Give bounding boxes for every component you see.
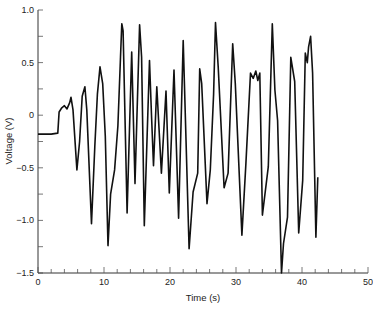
x-tick-label: 30: [231, 277, 241, 287]
x-tick-label: 10: [99, 277, 109, 287]
voltage-time-chart: 1.00.50−0.5−1.0−1.5 01020304050 Time (s)…: [0, 0, 373, 310]
y-tick-label: −1.5: [16, 268, 34, 278]
x-tick-label: 50: [363, 277, 373, 287]
voltage-trace: [38, 23, 318, 273]
y-tick-label: −1.0: [16, 215, 34, 225]
x-tick-label: 40: [297, 277, 307, 287]
x-tick-label: 0: [35, 277, 40, 287]
y-tick-label: −0.5: [16, 163, 34, 173]
x-axis: 01020304050: [35, 267, 373, 287]
y-tick-label: 0.5: [21, 58, 34, 68]
y-axis-label: Voltage (V): [3, 118, 14, 165]
y-tick-label: 1.0: [21, 5, 34, 15]
x-tick-label: 20: [165, 277, 175, 287]
x-axis-label: Time (s): [186, 292, 220, 303]
y-tick-label: 0: [29, 110, 34, 120]
y-axis: 1.00.50−0.5−1.0−1.5: [16, 5, 43, 278]
